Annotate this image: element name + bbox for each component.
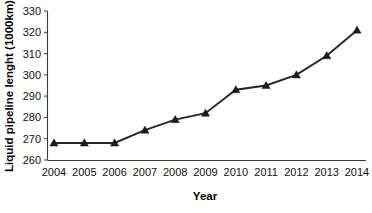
plot-area: 330 320 310 300 290 280 270 260 2004 200… (23, 5, 370, 178)
x-tick-label: 2007 (133, 166, 157, 178)
y-axis-title: Liquid pipeline lenght (1000km) (3, 0, 15, 172)
x-tick-label: 2011 (254, 166, 278, 178)
y-tick-label: 290 (23, 90, 41, 102)
x-tick-label: 2009 (193, 166, 217, 178)
y-tick-label: 320 (23, 26, 41, 38)
x-axis-title: Year (193, 190, 218, 202)
x-tick-label: 2008 (163, 166, 187, 178)
y-tick-label: 260 (23, 154, 41, 166)
x-tick-labels: 2004 2005 2006 2007 2008 2009 2010 2011 … (42, 166, 369, 178)
chart-canvas: 330 320 310 300 290 280 270 260 2004 200… (0, 0, 372, 213)
data-markers (50, 26, 361, 146)
x-tick-label: 2013 (314, 166, 338, 178)
y-tick-labels: 330 320 310 300 290 280 270 260 (23, 5, 41, 166)
y-tick-label: 270 (23, 133, 41, 145)
y-tick-label: 300 (23, 69, 41, 81)
x-tick-label: 2012 (284, 166, 308, 178)
x-tick-label: 2006 (102, 166, 126, 178)
y-tick-label: 330 (23, 5, 41, 17)
x-tick-label: 2014 (345, 166, 369, 178)
line-chart: 330 320 310 300 290 280 270 260 2004 200… (0, 0, 372, 213)
y-tick-label: 280 (23, 111, 41, 123)
data-point-marker (292, 71, 300, 78)
x-tick-label: 2005 (72, 166, 96, 178)
x-tick-label: 2004 (42, 166, 66, 178)
data-point-marker (353, 26, 361, 33)
data-line-liquid-pipeline-length (54, 30, 357, 143)
y-tick-label: 310 (23, 48, 41, 60)
x-tick-label: 2010 (224, 166, 248, 178)
